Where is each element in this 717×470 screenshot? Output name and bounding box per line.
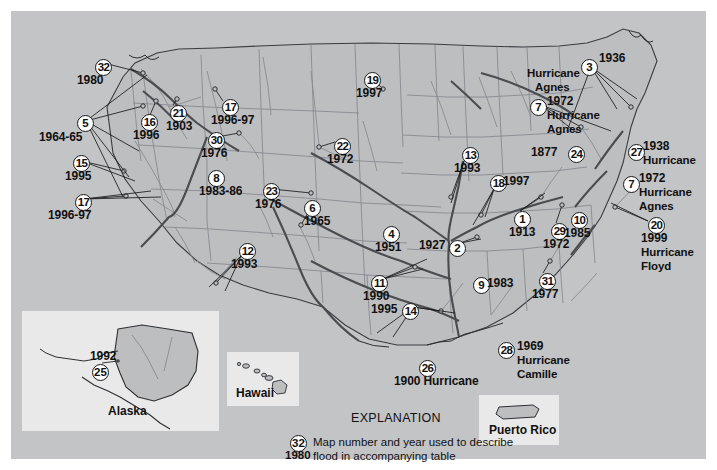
flood-year-5: 1964-65	[39, 132, 82, 144]
flood-year-17: 1996-97	[211, 115, 254, 127]
flood-year-26: 1900 Hurricane	[394, 376, 479, 388]
flood-note-28-2: Camille	[517, 369, 557, 381]
flood-year-15: 1995	[65, 171, 91, 183]
flood-year-14: 1995	[371, 304, 397, 316]
flood-year-17: 1996-97	[48, 210, 91, 222]
alaska-flood-year: 1992	[90, 351, 116, 363]
flood-year-24: 1877	[531, 147, 557, 159]
flood-year-7: 1972	[547, 96, 573, 108]
flood-year-7: 1972	[639, 173, 665, 185]
flood-year-3: 1936	[599, 53, 625, 65]
explanation-line-1: Map number and year used to describe	[313, 436, 513, 448]
flood-marker-2[interactable]: 2	[449, 240, 466, 257]
flood-year-22: 1972	[327, 154, 353, 166]
hurricane-agnes-header-line-2: Agnes	[535, 82, 570, 94]
flood-marker-14[interactable]: 14	[402, 303, 419, 320]
flood-marker-28[interactable]: 28	[498, 342, 515, 359]
flood-note-20-2: Floyd	[641, 261, 671, 273]
flood-note-20-1: Hurricane	[641, 247, 694, 259]
flood-year-9: 1983	[487, 278, 513, 290]
figure-root: Alaska 1992 25 Hawaii P	[0, 0, 717, 470]
explanation-line-2: flood in accompanying table	[313, 450, 456, 462]
flood-year-31: 1977	[532, 289, 558, 301]
flood-year-1: 1913	[509, 227, 535, 239]
flood-marker-7[interactable]: 7	[623, 176, 640, 193]
flood-year-6: 1965	[304, 216, 330, 228]
flood-marker-7[interactable]: 7	[530, 99, 547, 116]
flood-year-30: 1976	[201, 148, 227, 160]
inset-caption-alaska: Alaska	[108, 404, 147, 418]
flood-note-7-1: Hurricane	[639, 187, 692, 199]
flood-year-12: 1993	[231, 259, 257, 271]
flood-year-27: 1938	[643, 141, 669, 153]
flood-year-29: 1972	[543, 239, 569, 251]
flood-note-28-1: Hurricane	[517, 355, 570, 367]
inset-caption-hawaii: Hawaii	[236, 386, 274, 400]
alaska-flood-number[interactable]: 25	[92, 364, 109, 381]
flood-year-8: 1983-86	[199, 186, 242, 198]
flood-year-19: 1997	[356, 88, 382, 100]
flood-year-21: 1903	[166, 121, 192, 133]
flood-year-23: 1976	[255, 199, 281, 211]
explanation-heading: EXPLANATION	[351, 411, 441, 425]
inset-map-hawaii: Hawaii	[227, 352, 299, 406]
flood-note-7-2: Agnes	[639, 201, 674, 213]
flood-marker-24[interactable]: 24	[568, 146, 585, 163]
flood-year-32: 1980	[77, 75, 103, 87]
flood-year-28: 1969	[517, 341, 543, 353]
flood-year-13: 1993	[454, 163, 480, 175]
flood-note-27-1: Hurricane	[643, 155, 696, 167]
flood-year-2: 1927	[419, 240, 445, 252]
flood-year-16: 1996	[133, 130, 159, 142]
explanation-sample-year: 1980	[285, 449, 311, 461]
flood-year-20: 1999	[641, 233, 667, 245]
inset-map-alaska: Alaska 1992 25	[22, 311, 219, 431]
flood-note-7-2: Agnes	[547, 124, 582, 136]
flood-year-10: 1985	[564, 228, 590, 240]
flood-note-7-1: Hurricane	[547, 110, 600, 122]
flood-year-4: 1951	[375, 242, 401, 254]
flood-year-18: 1997	[503, 176, 529, 188]
hurricane-agnes-header-line-1: Hurricane	[527, 68, 580, 80]
flood-marker-3[interactable]: 3	[581, 59, 598, 76]
inset-caption-puerto-rico: Puerto Rico	[489, 423, 556, 437]
map-plate: Alaska 1992 25 Hawaii P	[11, 11, 706, 459]
